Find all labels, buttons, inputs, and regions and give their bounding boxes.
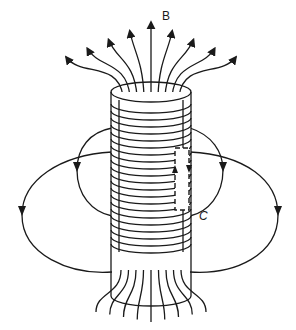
field-line-bottom: [159, 270, 165, 320]
field-line-bottom: [137, 270, 143, 320]
field-line-bottom: [96, 270, 121, 312]
field-line-top: [172, 48, 215, 96]
field-line-top: [158, 31, 172, 96]
field-lines-top: [66, 22, 236, 96]
arrow-down-icon: [18, 206, 26, 216]
field-line-top: [130, 31, 144, 96]
field-line-bottom: [124, 270, 137, 317]
field-line-top: [179, 57, 236, 96]
arrow-down-icon: [73, 162, 81, 172]
return-loop-outer-left: [22, 152, 112, 272]
field-line-bottom: [181, 270, 206, 312]
field-line-bottom: [110, 270, 129, 315]
field-line-top: [66, 57, 123, 96]
arrow-down-icon: [274, 206, 282, 216]
field-label-b: B: [162, 9, 170, 23]
field-line-top: [87, 48, 130, 96]
loop-label-c: C: [199, 209, 208, 223]
field-line-bottom: [166, 270, 179, 317]
solenoid-diagram: C B: [0, 0, 296, 330]
field-lines-bottom: [96, 270, 206, 322]
arrow-down-icon: [219, 162, 227, 172]
field-line-bottom: [174, 270, 193, 315]
return-loop-inner-left: [77, 128, 112, 216]
return-loop-inner-right: [190, 128, 223, 216]
